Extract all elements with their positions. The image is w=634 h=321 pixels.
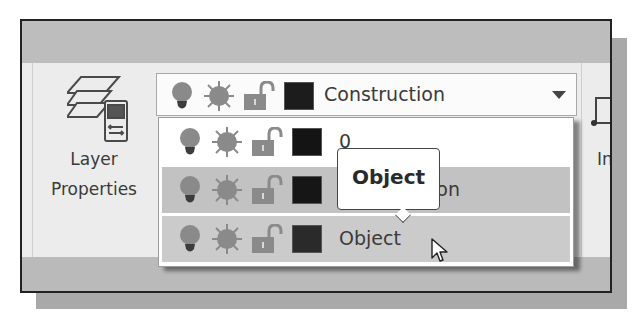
lightbulb-on-icon[interactable]: [179, 224, 201, 254]
insert-block-icon[interactable]: [595, 97, 612, 124]
layer-properties-label: Layer: [36, 149, 152, 169]
layer-state-icons: [171, 81, 331, 111]
layer-properties-icon: [67, 75, 129, 143]
lightbulb-on-icon[interactable]: [179, 127, 201, 157]
insert-point-icon: [591, 120, 597, 126]
current-layer-name: Construction: [324, 83, 445, 105]
unlock-icon[interactable]: [251, 224, 283, 254]
color-swatch[interactable]: [292, 176, 322, 204]
sun-thaw-icon[interactable]: [204, 81, 234, 111]
unlock-icon[interactable]: [243, 81, 275, 111]
sun-thaw-icon[interactable]: [212, 224, 242, 254]
panel-divider-left: [32, 63, 33, 257]
layer-dropdown[interactable]: Construction: [156, 73, 577, 116]
lightbulb-on-icon[interactable]: [179, 175, 201, 205]
layer-list-item[interactable]: Object: [162, 216, 570, 262]
unlock-icon[interactable]: [251, 127, 283, 157]
chevron-down-icon[interactable]: [552, 91, 566, 99]
layer-properties-button[interactable]: Layer Properties: [36, 69, 152, 209]
layer-state-icons: [179, 127, 339, 157]
layer-name: Object: [339, 227, 401, 249]
tooltip-text: Object: [338, 165, 439, 189]
ribbon-tab-bar: [22, 21, 610, 63]
color-swatch[interactable]: [292, 128, 322, 156]
ribbon-window: Layer Properties Construction: [20, 19, 612, 293]
insert-button-label[interactable]: In: [597, 149, 612, 169]
sun-thaw-icon[interactable]: [212, 127, 242, 157]
sun-thaw-icon[interactable]: [212, 175, 242, 205]
layer-state-icons: [179, 224, 339, 254]
layer-state-icons: [179, 175, 339, 205]
panel-divider-right: [581, 63, 582, 257]
color-swatch[interactable]: [292, 225, 322, 253]
mouse-cursor-icon: [431, 238, 449, 264]
layer-tooltip: Object: [337, 148, 440, 210]
unlock-icon[interactable]: [251, 175, 283, 205]
layer-properties-label: Properties: [36, 179, 152, 199]
color-swatch[interactable]: [284, 82, 314, 110]
lightbulb-on-icon[interactable]: [171, 81, 193, 111]
